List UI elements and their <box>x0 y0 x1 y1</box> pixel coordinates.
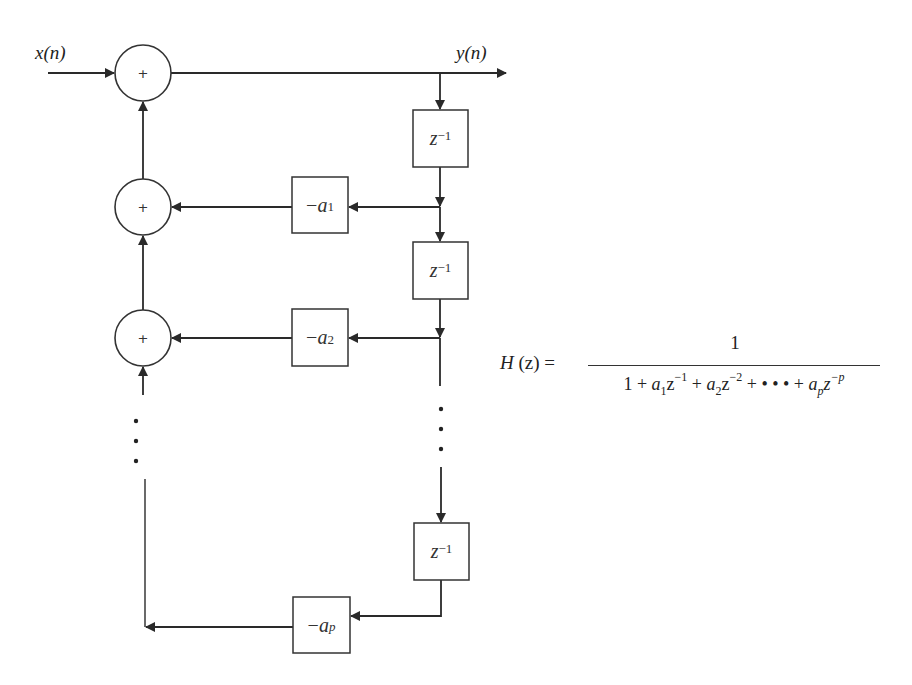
input-label: x(n) <box>35 42 66 64</box>
gain-sign: − <box>308 614 319 637</box>
output-label: y(n) <box>456 42 487 64</box>
formula-lhs: H (z) = <box>500 352 555 374</box>
formula-numerator: 1 <box>590 332 880 354</box>
delay-exp: −1 <box>437 128 451 144</box>
gain-ap-label: −ap <box>293 597 350 653</box>
gain-sub: 1 <box>327 199 334 215</box>
fraction-bar <box>588 365 880 366</box>
delay-base: z <box>430 259 438 282</box>
delay-3-label: z−1 <box>414 523 469 580</box>
transfer-function: H (z) = 1 1 + a1z−1 + a2z−2 + • • • + ap… <box>500 334 885 404</box>
formula-denominator: 1 + a1z−1 + a2z−2 + • • • + apz−p <box>588 372 880 399</box>
gain-coef: a <box>317 194 327 217</box>
delay-exp: −1 <box>438 541 452 557</box>
delay-exp: −1 <box>437 260 451 276</box>
delay-base: z <box>431 540 439 563</box>
gain-a1-label: −a1 <box>292 177 348 233</box>
gain-coef: a <box>319 614 329 637</box>
gain-sub: p <box>329 619 336 635</box>
right-ellipsis-dot <box>439 427 443 431</box>
delay-base: z <box>430 127 438 150</box>
gain-sign: − <box>306 194 317 217</box>
gain-coef: a <box>317 326 327 349</box>
adder-1-symbol: + <box>133 63 153 83</box>
adder-2-symbol: + <box>133 197 153 217</box>
adder-3-symbol: + <box>133 328 153 348</box>
gain-a2-label: −a2 <box>292 309 348 366</box>
left-ellipsis-dot <box>134 439 138 443</box>
delay-2-label: z−1 <box>413 242 468 299</box>
gain-sub: 2 <box>327 332 334 348</box>
gain-sign: − <box>306 326 317 349</box>
left-ellipsis-dot <box>134 459 138 463</box>
delay-3-out <box>351 580 441 616</box>
right-ellipsis-dot <box>439 407 443 411</box>
left-ellipsis-dot <box>134 419 138 423</box>
right-ellipsis-dot <box>439 447 443 451</box>
delay-1-label: z−1 <box>413 110 468 167</box>
